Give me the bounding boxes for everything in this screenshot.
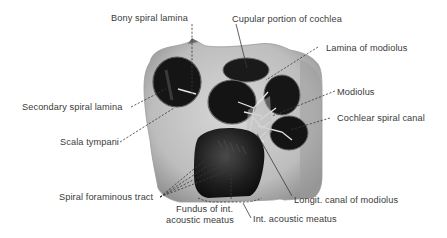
basal-turn-cavity [153, 57, 201, 107]
cochlea-diagram: Bony spiral lamina Cupular portion of co… [0, 0, 447, 238]
label-longit-canal-of-modiolus: Longit. canal of modiolus [294, 195, 398, 206]
label-lamina-of-modiolus: Lamina of modiolus [326, 43, 407, 54]
label-spiral-foraminous-tract: Spiral foraminous tract [59, 192, 153, 203]
cupular-cavity [223, 58, 269, 82]
label-fundus-line2: acoustic meatus [166, 215, 234, 226]
label-bony-spiral-lamina: Bony spiral lamina [111, 13, 188, 24]
label-modiolus: Modiolus [337, 87, 375, 98]
label-secondary-spiral-lamina: Secondary spiral lamina [22, 102, 122, 113]
label-cupular-portion-of-cochlea: Cupular portion of cochlea [232, 14, 342, 25]
internal-acoustic-meatus [194, 128, 264, 198]
label-cochlear-spiral-canal: Cochlear spiral canal [337, 113, 425, 124]
label-fundus-line1: Fundus of int. [176, 204, 233, 215]
label-int-acoustic-meatus: Int. acoustic meatus [253, 214, 337, 225]
cochlear-spiral-canal-cavity [270, 116, 308, 150]
label-scala-tympani: Scala tympani [60, 137, 119, 148]
